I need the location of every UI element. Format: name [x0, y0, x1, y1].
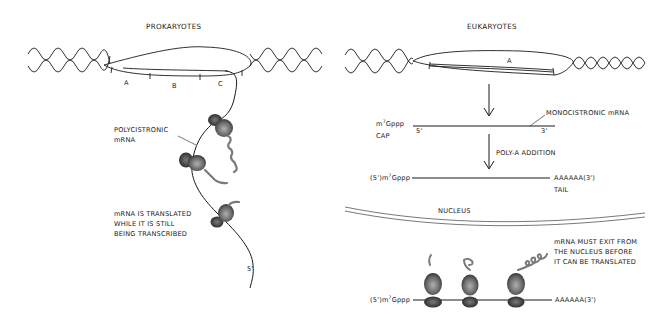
eukaryote-ribosome-1	[424, 255, 442, 308]
mono-five-prime: 5'	[416, 126, 422, 136]
prokaryote-transcription-bubble	[104, 47, 251, 80]
arrow-down-polya	[484, 134, 494, 169]
polya-addition-label: POLY-A ADDITION	[496, 148, 556, 158]
eukaryote-gene-label-a: A	[507, 56, 512, 66]
prokaryote-dna-right-helix	[250, 48, 322, 72]
monocistronic-leader-line	[530, 115, 545, 126]
monocistronic-label: MONOCISTRONIC mRNA	[546, 108, 629, 118]
mono-three-prime: 3'	[541, 126, 547, 136]
polycistronic-leader-line	[178, 136, 196, 145]
prokaryote-ribosome-3	[211, 202, 240, 228]
prokaryote-ribosome-1	[208, 114, 237, 172]
eukaryote-dna-left-helix	[345, 49, 413, 73]
translation-note-line3: BEING TRANSCRIBED	[114, 229, 187, 239]
gene-label-a: A	[124, 78, 129, 88]
mrna-label: mRNA	[114, 135, 135, 145]
tail-label: TAIL	[554, 185, 568, 195]
translated-mrna-5prime: (5')m7Gppp	[370, 295, 410, 305]
eukaryotes-title: EUKARYOTES	[467, 22, 517, 32]
polya-tail-sequence: AAAAAA(3')	[554, 173, 595, 183]
diagram-graphics	[0, 0, 671, 333]
translation-note-line1: mRNA IS TRANSLATED	[114, 209, 191, 219]
eukaryote-ribosome-2	[462, 259, 479, 308]
exit-note-line2: THE NUCLEUS BEFORE	[554, 247, 633, 257]
nucleus-label: NUCLEUS	[438, 206, 471, 216]
prokaryotes-title: PROKARYOTES	[146, 22, 201, 32]
gene-label-b: B	[172, 81, 177, 91]
gene-label-c: C	[218, 79, 223, 89]
prokaryote-five-prime: 5'	[247, 264, 253, 274]
eukaryote-dna-right-helix	[573, 57, 645, 69]
translated-mrna-tail: AAAAAA(3')	[555, 295, 596, 305]
exit-note-line1: mRNA MUST EXIT FROM	[554, 237, 637, 247]
nuclear-envelope	[345, 207, 645, 226]
polycistronic-label: POLYCISTRONIC	[114, 125, 168, 135]
capped-mrna-5prime: (5')m7Gppp	[370, 173, 410, 183]
cap-label: m7Gppp	[376, 119, 404, 129]
translation-note-line2: WHILE IT IS STILL	[114, 219, 175, 229]
eukaryote-ribosome-3	[507, 254, 547, 308]
prokaryote-dna-left-helix	[28, 48, 110, 72]
eukaryote-transcription-bubble	[413, 51, 573, 75]
diagram-transcription-translation: PROKARYOTES A B C POLYCISTRONIC mRNA mRN…	[0, 0, 671, 333]
arrow-down-transcription	[484, 84, 494, 116]
prokaryote-ribosome-2	[179, 153, 227, 184]
cap-text: CAP	[376, 131, 390, 141]
exit-note-line3: IT CAN BE TRANSLATED	[554, 257, 636, 267]
prokaryote-mrna-strand	[192, 71, 254, 288]
